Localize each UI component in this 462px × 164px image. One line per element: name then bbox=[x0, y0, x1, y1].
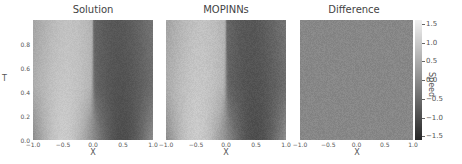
x-tick-label: 0.0 bbox=[352, 141, 362, 148]
x-tick-label: 0.5 bbox=[380, 141, 390, 148]
x-tick-label: −0.5 bbox=[189, 141, 204, 148]
mopinns-panel-title: MOPINNs bbox=[166, 4, 286, 15]
difference-heatmap bbox=[300, 20, 413, 140]
x-tick-label: 1.0 bbox=[148, 141, 158, 148]
x-tick-label: −1.0 bbox=[293, 141, 308, 148]
y-tick-label: 0.4 bbox=[14, 89, 30, 96]
colorbar-tick-mark bbox=[422, 80, 425, 81]
mopinns-heatmap-canvas bbox=[166, 20, 286, 140]
y-tick-label: 0.6 bbox=[14, 65, 30, 72]
colorbar-tick-label: 0.5 bbox=[426, 57, 437, 65]
x-tick-label: 0.5 bbox=[118, 141, 128, 148]
x-tick-label: 1.0 bbox=[408, 141, 418, 148]
x-axis-label-difference: X bbox=[354, 148, 359, 157]
x-tick-label: −1.0 bbox=[159, 141, 174, 148]
solution-heatmap-canvas bbox=[33, 20, 153, 140]
y-tick-label: 0.2 bbox=[14, 113, 30, 120]
difference-panel-title: Difference bbox=[294, 4, 414, 15]
x-axis-label-mopinns: X bbox=[223, 148, 228, 157]
x-axis-label-solution: X bbox=[90, 148, 95, 157]
solution-panel-title: Solution bbox=[33, 4, 153, 15]
difference-heatmap-canvas bbox=[300, 20, 413, 140]
colorbar-tick-mark bbox=[422, 99, 425, 100]
x-tick-label: −1.0 bbox=[26, 141, 41, 148]
colorbar-tick-label: −1.0 bbox=[426, 114, 443, 122]
colorbar bbox=[415, 20, 422, 140]
x-tick-label: 1.0 bbox=[281, 141, 291, 148]
colorbar-tick-label: −1.5 bbox=[426, 132, 443, 140]
colorbar-tick-label: 1.5 bbox=[426, 20, 437, 28]
x-tick-label: 0.0 bbox=[221, 141, 231, 148]
x-tick-label: −0.5 bbox=[321, 141, 336, 148]
solution-heatmap bbox=[33, 20, 153, 140]
mopinns-heatmap bbox=[166, 20, 286, 140]
colorbar-gradient bbox=[415, 20, 422, 140]
colorbar-tick-mark bbox=[422, 24, 425, 25]
colorbar-tick-mark bbox=[422, 118, 425, 119]
x-tick-label: 0.5 bbox=[251, 141, 261, 148]
colorbar-label: Speed bbox=[427, 72, 436, 97]
colorbar-tick-mark bbox=[422, 43, 425, 44]
x-tick-label: 0.0 bbox=[88, 141, 98, 148]
y-axis-label: T bbox=[2, 74, 7, 83]
x-tick-label: −0.5 bbox=[56, 141, 71, 148]
colorbar-tick-mark bbox=[422, 136, 425, 137]
y-tick-label: 0.8 bbox=[14, 41, 30, 48]
colorbar-tick-mark bbox=[422, 61, 425, 62]
colorbar-tick-label: 1.0 bbox=[426, 39, 437, 47]
